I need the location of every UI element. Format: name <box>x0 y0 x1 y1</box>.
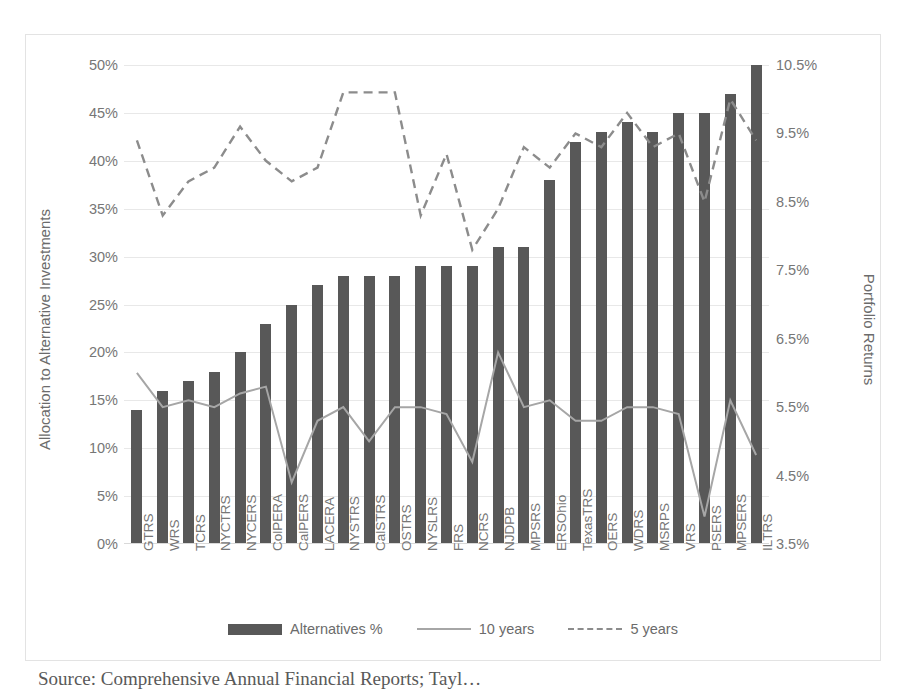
x-axis-label-mpsrs: MPSRS <box>529 503 543 551</box>
y-axis-left-tick-label: 5% <box>38 489 118 504</box>
y-axis-right-title: Portfolio Returns <box>861 150 878 510</box>
x-axis-label-wdrs: WDRS <box>632 510 646 551</box>
chart-legend: Alternatives % 10 years 5 years <box>26 621 880 637</box>
legend-label-alternatives: Alternatives % <box>290 621 383 637</box>
x-axis-label-texastrs: TexasTRS <box>581 489 595 551</box>
x-axis-label-ersohio: ERSOhio <box>555 495 569 551</box>
x-axis-label-njdpb: NJDPB <box>503 507 517 551</box>
legend-item-alternatives: Alternatives % <box>228 621 383 637</box>
x-axis-label-psers: PSERS <box>710 505 724 551</box>
legend-item-10-years: 10 years <box>417 621 535 637</box>
y-axis-left-tick-label: 35% <box>38 202 118 217</box>
plot-area: 0%5%10%15%20%25%30%35%40%45%50% 3.5%4.5%… <box>124 65 769 544</box>
y-axis-right-tick-label: 4.5% <box>776 469 856 484</box>
legend-label-10-years: 10 years <box>479 621 535 637</box>
y-axis-right-tick-label: 5.5% <box>776 400 856 415</box>
x-axis-label-msrps: MSRPS <box>658 503 672 551</box>
line-5-years <box>137 92 756 249</box>
figure-caption: Source: Comprehensive Annual Financial R… <box>38 668 481 690</box>
y-axis-left-tick-label: 30% <box>38 250 118 265</box>
x-axis-label-gtrs: GTRS <box>142 513 156 551</box>
x-axis-label-nystrs: NYSTRS <box>348 496 362 551</box>
x-axis-label-calstrs: CalSTRS <box>374 495 388 551</box>
line-10-years <box>137 352 756 516</box>
y-axis-left-tick-label: 20% <box>38 345 118 360</box>
x-axis-label-colpera: ColPERA <box>271 494 285 551</box>
y-axis-left-tick-label: 25% <box>38 298 118 313</box>
y-axis-left-tick-label: 50% <box>38 58 118 73</box>
y-axis-left-tick-label: 10% <box>38 441 118 456</box>
y-axis-left-tick-label: 0% <box>38 537 118 552</box>
x-axis-label-tcrs: TCRS <box>194 514 208 551</box>
x-axis-label-oers: OERS <box>606 513 620 551</box>
x-axis-label-iltrs: ILTRS <box>761 514 775 551</box>
y-axis-right-tick-label: 3.5% <box>776 537 856 552</box>
y-axis-right-tick-label: 9.5% <box>776 126 856 141</box>
x-axis-label-nyctrs: NYCTRS <box>219 495 233 551</box>
chart-container: Allocation to Alternative Investments Po… <box>25 34 881 661</box>
x-axis-label-mpsers: MPSERS <box>735 494 749 551</box>
x-axis-label-ostrs: OSTRS <box>400 504 414 551</box>
legend-item-5-years: 5 years <box>568 621 678 637</box>
y-axis-right-tick-label: 8.5% <box>776 195 856 210</box>
y-axis-right-tick-label: 10.5% <box>776 58 856 73</box>
x-axis-label-vrs: VRS <box>684 523 698 551</box>
y-axis-left-tick-label: 15% <box>38 393 118 408</box>
x-axis-label-nyslrs: NYSLRS <box>426 497 440 551</box>
x-axis-label-frs: FRS <box>452 524 466 551</box>
line-series-group <box>124 65 769 544</box>
legend-swatch-dashed-line-icon <box>568 628 622 630</box>
x-axis-label-wrs: WRS <box>168 520 182 552</box>
y-axis-right-tick-label: 6.5% <box>776 332 856 347</box>
y-axis-right-tick-label: 7.5% <box>776 263 856 278</box>
legend-label-5-years: 5 years <box>630 621 678 637</box>
legend-swatch-solid-line-icon <box>417 628 471 630</box>
legend-swatch-bar-icon <box>228 624 282 635</box>
y-axis-left-tick-label: 40% <box>38 154 118 169</box>
x-axis-label-lacera: LACERA <box>323 497 337 551</box>
x-axis-label-ncrs: NCRS <box>477 513 491 551</box>
x-axis-label-nycers: NYCERS <box>245 495 259 551</box>
y-axis-left-tick-label: 45% <box>38 106 118 121</box>
x-axis-label-calpers: CalPERS <box>297 494 311 551</box>
